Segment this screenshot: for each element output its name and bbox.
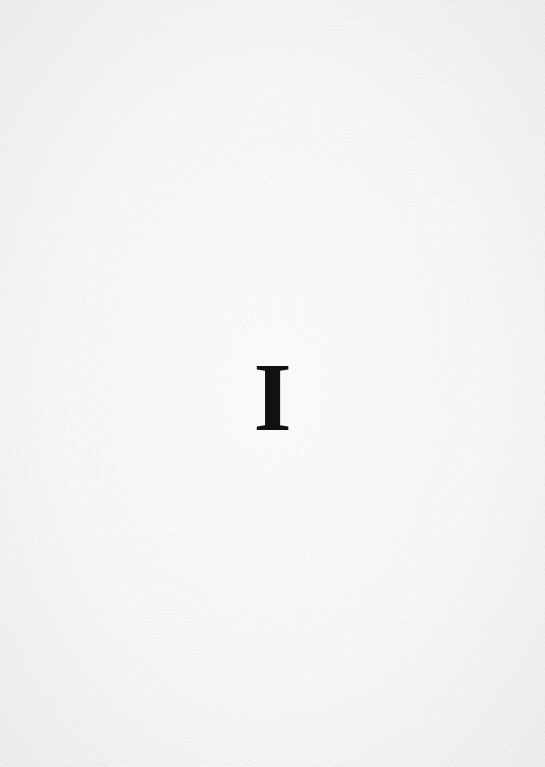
- part-numeral-heading: I: [0, 348, 545, 446]
- document-page: I: [0, 0, 545, 767]
